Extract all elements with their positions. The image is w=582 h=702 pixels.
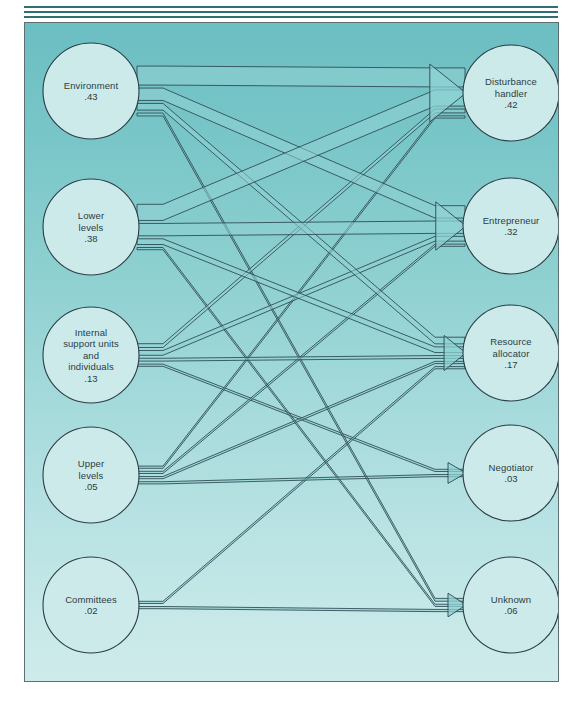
- top-rule-3: [24, 16, 558, 18]
- flow-links-layer: [137, 64, 466, 617]
- node-label-line: Unknown: [491, 594, 531, 605]
- node-label-line: .02: [84, 605, 98, 616]
- node-label-line: Lower: [78, 210, 104, 221]
- top-rule-1: [24, 6, 558, 8]
- node-label-line: .38: [84, 233, 98, 244]
- flow-diagram-svg: Environment.43Lowerlevels.38Internalsupp…: [25, 23, 558, 681]
- flow-link: [137, 66, 465, 87]
- node-label-line: levels: [79, 222, 104, 233]
- flow-link: [137, 248, 465, 607]
- source-node-internal[interactable]: Internalsupport unitsandindividuals.13: [43, 307, 139, 403]
- node-label-line: .13: [84, 373, 98, 384]
- flow-link: [137, 361, 465, 478]
- flow-link: [137, 607, 465, 612]
- node-label-line: and: [83, 350, 99, 361]
- target-node-unknown[interactable]: Unknown.06: [463, 557, 558, 653]
- flow-link: [137, 116, 465, 468]
- target-node-resource[interactable]: Resourceallocator.17: [463, 305, 558, 401]
- node-label-line: .05: [84, 481, 98, 492]
- node-label-line: support units: [63, 338, 119, 349]
- node-label-line: .32: [504, 226, 518, 237]
- node-label-line: Environment: [64, 80, 119, 91]
- node-label-line: .17: [504, 359, 518, 370]
- target-node-entrepreneur[interactable]: Entrepreneur.32: [463, 178, 558, 274]
- node-label-line: .03: [504, 473, 518, 484]
- flow-link: [137, 221, 465, 236]
- source-node-lower[interactable]: Lowerlevels.38: [43, 179, 139, 275]
- nodes-layer: Environment.43Lowerlevels.38Internalsupp…: [43, 43, 558, 653]
- flow-link: [137, 367, 465, 604]
- target-node-disturbance[interactable]: Disturbancehandler.42: [463, 45, 558, 141]
- source-node-environment[interactable]: Environment.43: [43, 43, 139, 139]
- flow-link: [137, 239, 465, 353]
- node-label-line: Entrepreneur: [483, 215, 540, 226]
- diagram-panel: Environment.43Lowerlevels.38Internalsupp…: [24, 22, 559, 682]
- node-label-line: allocator: [493, 348, 530, 359]
- node-label-line: Committees: [65, 594, 117, 605]
- diagram-canvas: Environment.43Lowerlevels.38Internalsupp…: [25, 23, 558, 681]
- source-node-committees[interactable]: Committees.02: [43, 557, 139, 653]
- diagram-page: Environment.43Lowerlevels.38Internalsupp…: [0, 0, 582, 702]
- node-label-line: .43: [84, 91, 98, 102]
- node-label-line: .42: [504, 99, 518, 110]
- node-label-line: Resource: [490, 336, 531, 347]
- node-label-line: levels: [79, 470, 104, 481]
- node-label-line: Disturbance: [485, 76, 537, 87]
- target-node-negotiator[interactable]: Negotiator.03: [463, 425, 558, 521]
- node-label-line: individuals: [68, 361, 114, 372]
- node-label-line: Negotiator: [489, 462, 534, 473]
- node-label-line: .06: [504, 605, 518, 616]
- node-label-line: Upper: [78, 458, 104, 469]
- node-label-line: handler: [495, 88, 527, 99]
- node-label-line: Internal: [75, 327, 108, 338]
- top-rule-2: [24, 11, 558, 13]
- source-node-upper[interactable]: Upperlevels.05: [43, 427, 139, 523]
